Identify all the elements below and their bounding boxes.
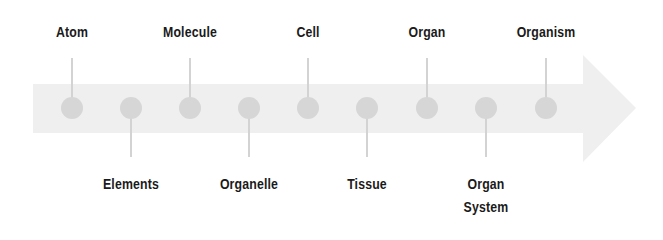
node-label-line: System [464,195,509,218]
node-label-line: Organ [464,172,509,195]
node-label: Organelle [220,172,278,195]
node-dot [416,97,438,119]
node-dot [120,97,142,119]
node-label: OrganSystem [464,172,509,218]
node-label: Molecule [163,20,217,43]
node-label: Atom [56,20,88,43]
node-dot [356,97,378,119]
node-dot [475,97,497,119]
node-dot [297,97,319,119]
node-label: Cell [296,20,319,43]
node-label: Tissue [347,172,387,195]
node-dot [179,97,201,119]
node-dot [535,97,557,119]
node-label: Elements [103,172,159,195]
node-dot [238,97,260,119]
node-label: Organ [408,20,445,43]
node-label: Organism [517,20,576,43]
node-dot [61,97,83,119]
